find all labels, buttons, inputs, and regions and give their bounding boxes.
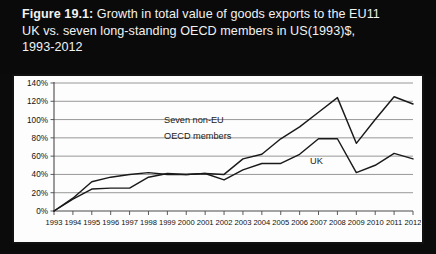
y-axis-tick-label: 120%: [27, 97, 48, 106]
series-label-uk: UK: [310, 156, 324, 166]
chart-plot-area: 0%20%40%60%80%100%120%140% 1993199419951…: [14, 76, 422, 242]
figure-title-line1: Growth in total value of goods exports t…: [93, 7, 380, 21]
series-label-oecd-line1: Seven non-EU: [164, 115, 224, 125]
x-axis-tick-label: 2004: [253, 218, 270, 227]
x-axis-tick-label: 2012: [405, 218, 421, 227]
series-line: [54, 139, 413, 211]
chart-gridlines: [54, 83, 413, 193]
figure-title-line3: 1993-2012: [22, 40, 83, 54]
y-axis-tick-label: 140%: [27, 79, 48, 88]
series-line: [54, 97, 413, 211]
figure-title-line2: UK vs. seven long-standing OECD members …: [22, 24, 355, 38]
x-axis-tick-label: 1996: [102, 218, 119, 227]
x-axis-tick-label: 2003: [234, 218, 251, 227]
screenshot-root: Figure 19.1: Growth in total value of go…: [0, 0, 436, 254]
x-axis-tick-label: 2006: [291, 218, 308, 227]
x-axis-tick-label: 2008: [329, 218, 346, 227]
x-axis-tick-label: 2002: [216, 218, 233, 227]
chart-series-lines: [54, 97, 413, 211]
figure-caption: Figure 19.1: Growth in total value of go…: [0, 0, 436, 74]
x-axis-tick-label: 2007: [310, 218, 327, 227]
y-axis-tick-label: 0%: [36, 207, 48, 216]
x-axis-tick-label: 1999: [159, 218, 176, 227]
figure-caption-text: Figure 19.1: Growth in total value of go…: [22, 6, 422, 56]
y-axis-tick-label: 80%: [32, 134, 48, 143]
chart-panel: 0%20%40%60%80%100%120%140% 1993199419951…: [12, 74, 424, 244]
x-axis-tick-label: 2001: [197, 218, 214, 227]
y-axis-tick-label: 20%: [32, 189, 48, 198]
x-axis-tick-label: 2009: [348, 218, 365, 227]
x-axis-tick-label: 2000: [178, 218, 195, 227]
x-axis-tick-label: 2005: [272, 218, 289, 227]
x-axis-tick-label: 1997: [121, 218, 138, 227]
series-label-oecd-line2: OECD members: [164, 131, 232, 141]
x-axis-tick-label: 1995: [83, 218, 100, 227]
y-axis-tick-label: 60%: [32, 152, 48, 161]
x-axis-tick-label: 1998: [140, 218, 157, 227]
chart-x-tickmarks: [54, 211, 413, 215]
x-axis-tick-label: 1993: [46, 218, 63, 227]
x-axis-tick-label: 2010: [367, 218, 384, 227]
figure-number: Figure 19.1:: [22, 7, 93, 21]
chart-y-axis-labels: 0%20%40%60%80%100%120%140%: [27, 79, 48, 216]
x-axis-tick-label: 2011: [386, 218, 402, 227]
line-chart: 0%20%40%60%80%100%120%140% 1993199419951…: [14, 76, 421, 241]
x-axis-tick-label: 1994: [64, 218, 81, 227]
y-axis-tick-label: 40%: [32, 170, 48, 179]
y-axis-tick-label: 100%: [27, 116, 48, 125]
chart-x-axis-labels: 1993199419951996199719981999200020012002…: [46, 218, 421, 227]
